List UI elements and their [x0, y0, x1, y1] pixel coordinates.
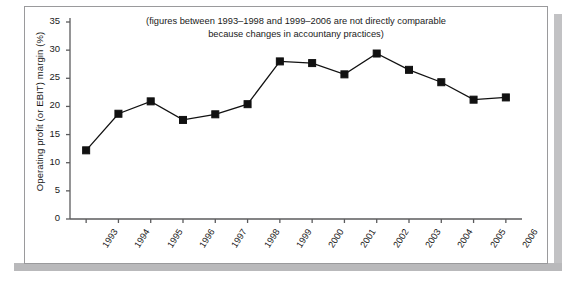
- axes-group: [66, 18, 522, 223]
- data-point-markers: [83, 50, 510, 154]
- plot-area: Operating profit (or EBIT) margin (%) (f…: [0, 0, 568, 281]
- chart-canvas: [0, 0, 568, 281]
- chart-page: Operating profit (or EBIT) margin (%) (f…: [0, 0, 568, 281]
